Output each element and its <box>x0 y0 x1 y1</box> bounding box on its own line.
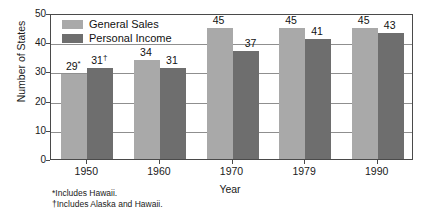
footnote-line-2: †Includes Alaska and Hawaii. <box>52 199 163 210</box>
bar-value-label: 45 <box>271 15 311 26</box>
legend-swatch-icon-personal-income <box>62 34 83 43</box>
legend-label-general-sales: General Sales <box>89 19 159 30</box>
legend-item-personal-income: Personal Income <box>62 33 172 44</box>
bar-value-label: 37 <box>231 38 271 49</box>
legend-label-personal-income: Personal Income <box>89 33 172 44</box>
bar-general-sales <box>279 28 305 159</box>
footnote-line-1: *Includes Hawaii. <box>52 188 163 199</box>
bar-general-sales <box>352 28 378 159</box>
bar-general-sales <box>134 60 160 159</box>
y-tick-label: 40 <box>2 38 46 48</box>
bar-value-label: 43 <box>370 20 410 31</box>
x-tick-label: 1960 <box>129 166 189 177</box>
bar-personal-income <box>160 68 186 159</box>
y-tick-label: 20 <box>2 97 46 107</box>
x-axis-title: Year <box>190 184 270 195</box>
legend-item-general-sales: General Sales <box>62 19 172 30</box>
y-tick-label: 50 <box>2 9 46 19</box>
bar-value-label: 31 <box>152 55 192 66</box>
bar-general-sales <box>61 74 87 159</box>
y-tick-label: 0 <box>2 155 46 165</box>
chart-figure: Number of States 01020304050 29*31†34314… <box>0 0 430 221</box>
y-tick-mark <box>46 160 50 161</box>
bar-personal-income <box>233 51 259 159</box>
x-tick-mark <box>304 160 305 164</box>
x-tick-mark <box>377 160 378 164</box>
x-tick-label: 1990 <box>347 166 407 177</box>
bar-value-label: 31† <box>79 55 119 66</box>
bar-general-sales <box>207 28 233 159</box>
bar-personal-income <box>378 33 404 159</box>
footnotes: *Includes Hawaii. †Includes Alaska and H… <box>52 188 163 210</box>
x-tick-label: 1970 <box>202 166 262 177</box>
bar-personal-income <box>87 68 113 159</box>
y-tick-label: 30 <box>2 67 46 77</box>
x-tick-mark <box>232 160 233 164</box>
y-tick-label: 10 <box>2 126 46 136</box>
legend-swatch-icon-general-sales <box>62 20 83 29</box>
x-tick-mark <box>159 160 160 164</box>
chart-legend: General Sales Personal Income <box>62 19 172 44</box>
bar-value-label: 41 <box>297 26 337 37</box>
x-tick-mark <box>86 160 87 164</box>
bar-value-label: 45 <box>199 15 239 26</box>
x-tick-label: 1950 <box>56 166 116 177</box>
bar-personal-income <box>305 39 331 159</box>
x-tick-label: 1979 <box>274 166 334 177</box>
